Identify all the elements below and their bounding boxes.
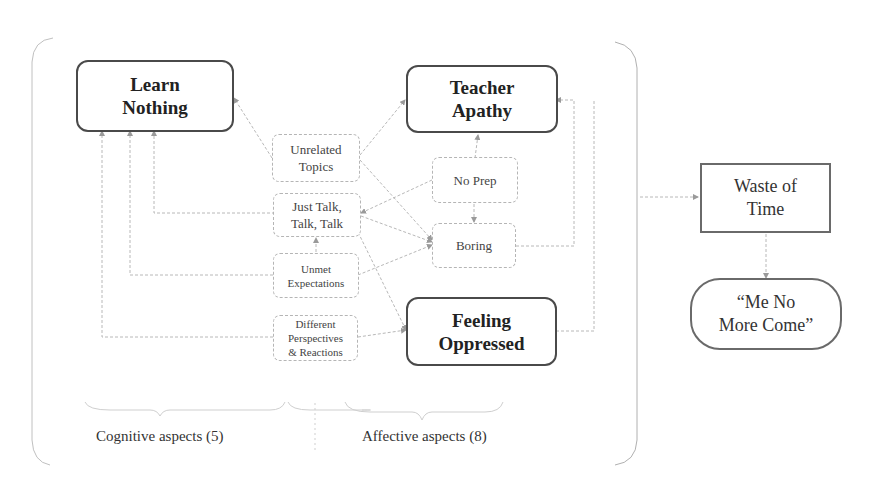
node-unrelated-topics: Unrelated Topics bbox=[272, 134, 360, 182]
caption-cognitive-aspects: Cognitive aspects (5) bbox=[96, 428, 223, 445]
node-waste-of-time: Waste of Time bbox=[700, 163, 831, 233]
caption-affective-aspects: Affective aspects (8) bbox=[362, 428, 487, 445]
node-teacher-apathy: Teacher Apathy bbox=[406, 65, 558, 133]
node-unmet-expectations: Unmet Expectations bbox=[273, 253, 359, 298]
node-me-no-more-come: “Me No More Come” bbox=[690, 278, 842, 350]
diagram-canvas: Learn Nothing Teacher Apathy Feeling Opp… bbox=[0, 0, 870, 503]
node-learn-nothing: Learn Nothing bbox=[76, 60, 234, 132]
node-learn-nothing-label: Learn Nothing bbox=[122, 73, 187, 119]
node-different-perspectives-label: Different Perspectives & Reactions bbox=[288, 317, 343, 359]
node-teacher-apathy-label: Teacher Apathy bbox=[450, 76, 515, 122]
group-container bbox=[32, 38, 53, 465]
node-unrelated-topics-label: Unrelated Topics bbox=[290, 141, 341, 175]
node-boring-label: Boring bbox=[456, 237, 492, 254]
node-unmet-expectations-label: Unmet Expectations bbox=[288, 262, 345, 290]
node-boring: Boring bbox=[432, 223, 516, 268]
node-feeling-oppressed-label: Feeling Oppressed bbox=[438, 309, 524, 355]
node-just-talk-label: Just Talk, Talk, Talk bbox=[291, 198, 343, 232]
node-waste-of-time-label: Waste of Time bbox=[734, 175, 797, 221]
node-no-prep: No Prep bbox=[432, 157, 518, 203]
node-feeling-oppressed: Feeling Oppressed bbox=[406, 297, 557, 366]
node-different-perspectives: Different Perspectives & Reactions bbox=[273, 315, 358, 361]
node-me-no-more-come-label: “Me No More Come” bbox=[719, 291, 813, 337]
node-just-talk: Just Talk, Talk, Talk bbox=[273, 193, 361, 237]
node-no-prep-label: No Prep bbox=[454, 172, 497, 189]
